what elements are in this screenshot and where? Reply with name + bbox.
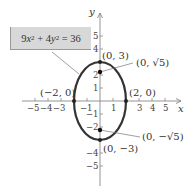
y-axis-label: y (89, 7, 95, 17)
x-tick-label: 1 (111, 104, 116, 113)
y-tick-label: −2 (86, 123, 99, 132)
co-vertex-right-label: (2, 0) (129, 88, 156, 98)
x-tick-label: −4 (40, 104, 53, 113)
x-axis-label: x (178, 104, 184, 114)
focus-bottom-label: (0, −√5) (142, 132, 184, 142)
x-tick-label: 5 (163, 104, 168, 113)
y-tick-label: 1 (93, 84, 98, 93)
co-vertex-right-point (124, 99, 128, 103)
x-tick-label: −3 (53, 104, 66, 113)
equation-plus: + 4 (35, 33, 51, 44)
y-tick-label: −4 (86, 149, 99, 158)
equation-rhs: = 36 (59, 33, 81, 44)
x-tick-label: 3 (137, 104, 142, 113)
y-tick-label: 2 (93, 71, 98, 80)
y-tick-label: −5 (86, 162, 99, 171)
x-tick-label: 4 (150, 104, 155, 113)
y-tick-label: −1 (86, 110, 99, 119)
equation-leader-line (52, 52, 79, 74)
focus-top-point (98, 70, 102, 74)
equation-box: 9x2 + 4y2 = 36 (10, 27, 91, 50)
vertex-bottom-point (98, 138, 102, 142)
ellipse-graph: 9x2 + 4y2 = 36 y x −5 −4 −3 −1 1 3 4 5 5… (0, 0, 194, 192)
focus-bottom-leader (100, 130, 140, 137)
y-tick-label: 5 (93, 32, 98, 41)
x-tick-label: −5 (27, 104, 40, 113)
focus-top-label: (0, √5) (136, 58, 169, 68)
co-vertex-left-point (72, 99, 76, 103)
vertex-bottom-label: (0, −3) (103, 144, 138, 154)
vertex-top-label: (0, 3) (102, 51, 129, 61)
y-tick-label: 4 (93, 45, 98, 54)
co-vertex-left-label: (−2, 0) (40, 88, 75, 98)
